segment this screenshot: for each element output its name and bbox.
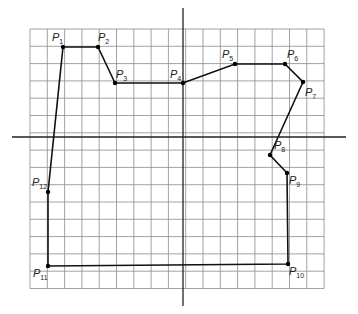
vertex-dot (181, 81, 185, 85)
vertex-label: P8 (274, 139, 285, 153)
vertex-dot (283, 62, 287, 66)
vertex-label: P4 (170, 68, 181, 82)
vertex-dot (301, 80, 305, 84)
vertex-label: P7 (305, 86, 316, 100)
vertex-dot (46, 190, 50, 194)
vertex-dot (61, 45, 65, 49)
vertex-dot (268, 153, 272, 157)
vertex-dot (96, 45, 100, 49)
vertex-label: P3 (116, 68, 127, 82)
vertex-label: P11 (33, 267, 48, 281)
vertex-labels: P1P2P3P4P5P6P7P8P9P10P11P12 (32, 31, 316, 281)
vertex-label: P5 (222, 48, 233, 62)
vertex-dot (46, 264, 50, 268)
vertex-label: P9 (289, 174, 300, 188)
vertex-dot (113, 81, 117, 85)
vertex-label: P1 (52, 31, 63, 45)
vertex-dot (233, 62, 237, 66)
vertex-label: P2 (98, 31, 109, 45)
polygon-diagram: P1P2P3P4P5P6P7P8P9P10P11P12 (0, 0, 358, 314)
vertex-label: P6 (287, 48, 298, 62)
vertex-label: P12 (32, 176, 47, 190)
vertex-label: P10 (289, 265, 304, 279)
